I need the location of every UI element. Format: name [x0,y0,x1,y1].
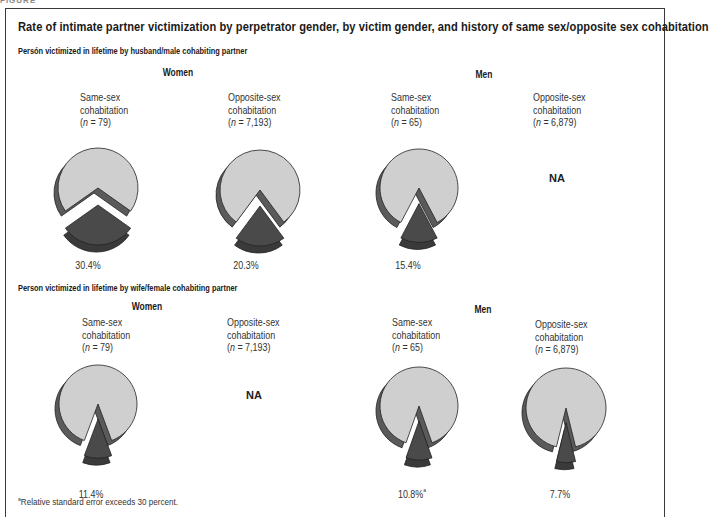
pie-slice-not-victimized [58,148,138,211]
pie-chart [522,368,606,470]
pie-chart [54,148,138,252]
pie-chart [376,149,458,250]
pie-chart [376,367,458,467]
pie-chart [216,150,300,253]
pie-chart [55,365,137,465]
